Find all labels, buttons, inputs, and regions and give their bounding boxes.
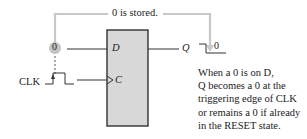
input-value-label: 0: [52, 41, 57, 52]
clk-label: CLK: [19, 76, 40, 87]
arrow-down-icon: [206, 45, 214, 52]
description-line-5: in the RESET state.: [198, 119, 300, 132]
description-line-2: Q becomes a 0 at the: [198, 79, 300, 92]
description-line-3: triggering edge of CLK: [198, 92, 300, 105]
description-text: When a 0 is on D, Q becomes a 0 at the t…: [198, 66, 300, 132]
output-value-label: 0: [214, 40, 219, 51]
rising-edge-arrow-icon: [51, 74, 55, 79]
description-line-4: or remains a 0 if already: [198, 106, 300, 119]
d-input-label: D: [112, 42, 120, 53]
q-output-label: Q: [182, 42, 190, 53]
c-input-label: C: [115, 74, 122, 85]
description-line-1: When a 0 is on D,: [198, 66, 300, 79]
callout-label: 0 is stored.: [112, 7, 158, 18]
clk-waveform: [45, 73, 74, 84]
